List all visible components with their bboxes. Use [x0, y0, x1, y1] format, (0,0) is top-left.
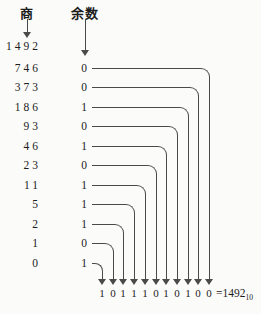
remainder-value: 0	[78, 158, 90, 172]
quotient-value: 93	[0, 119, 41, 133]
quotient-value: 11	[0, 178, 41, 192]
decimal-result-value: =1492	[216, 287, 246, 299]
quotient-value: 373	[0, 80, 41, 94]
base-subscript: 10	[246, 293, 254, 302]
binary-digit: 1	[183, 287, 193, 300]
remainder-value: 0	[78, 61, 90, 75]
binary-digit: 0	[108, 287, 118, 300]
remainder-value: 1	[78, 256, 90, 270]
binary-digit: 1	[161, 287, 171, 300]
remainder-header-arrow-line	[85, 19, 86, 52]
quotient-value: 186	[0, 100, 41, 114]
binary-digit: 1	[140, 287, 150, 300]
quotient-value: 46	[0, 139, 41, 153]
binary-digit: 0	[151, 287, 161, 300]
quotient-value: 5	[0, 197, 41, 211]
decimal-result: =149210	[216, 287, 253, 301]
binary-digit: 1	[129, 287, 139, 300]
arrow-down-icon	[152, 279, 160, 285]
quotient-value: 23	[0, 158, 41, 172]
quotient-value: 746	[0, 61, 41, 75]
arrow-down-icon	[205, 279, 213, 285]
arrow-down-icon	[162, 279, 170, 285]
remainder-value: 1	[78, 139, 90, 153]
arrow-down-icon	[119, 279, 127, 285]
binary-digit: 1	[118, 287, 128, 300]
arrow-down-icon	[173, 279, 181, 285]
arrow-down-icon	[130, 279, 138, 285]
quotient-value: 2	[0, 217, 41, 231]
arrow-down-icon	[109, 279, 117, 285]
binary-digit: 0	[193, 287, 203, 300]
remainder-value: 0	[78, 80, 90, 94]
arrow-down-icon	[98, 279, 106, 285]
remainder-value: 1	[78, 178, 90, 192]
remainder-value: 1	[78, 100, 90, 114]
binary-digit: 0	[204, 287, 214, 300]
arrow-down-icon	[23, 32, 31, 38]
arrow-down-icon	[184, 279, 192, 285]
quotient-value: 0	[0, 256, 41, 270]
remainder-value: 1	[78, 217, 90, 231]
decimal-to-binary-conversion-diagram: 商 余数 1492 746 373 186 93 46 23 11 5 2 1 …	[0, 0, 261, 314]
binary-digit: 0	[172, 287, 182, 300]
arrow-down-icon	[194, 279, 202, 285]
binary-digit: 1	[97, 287, 107, 300]
remainder-value: 0	[78, 119, 90, 133]
remainder-value: 0	[78, 236, 90, 250]
quotient-value: 1492	[0, 39, 41, 53]
arrow-down-icon	[141, 279, 149, 285]
quotient-value: 1	[0, 236, 41, 250]
arrow-down-icon	[81, 50, 89, 56]
remainder-value: 1	[78, 197, 90, 211]
